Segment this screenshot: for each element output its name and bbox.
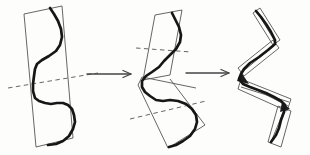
strip-rect [24,6,73,147]
curve [33,8,75,145]
strip-tree-diagram [0,0,310,155]
split-dashed-line [8,73,98,88]
arrow-second-to-third [186,70,229,77]
panel-two-strips [130,10,206,148]
chord-line [142,77,196,88]
split-dashed-line [130,101,206,119]
figure-canvas [0,0,310,155]
panel-single-strip [8,6,98,147]
curve [142,13,197,147]
chord-line [241,87,289,102]
split-dashed-line [136,48,191,52]
curve [239,11,285,142]
chord-line [138,85,168,148]
arrow-first-to-second [87,71,131,78]
panel-strip-tree [237,8,291,147]
